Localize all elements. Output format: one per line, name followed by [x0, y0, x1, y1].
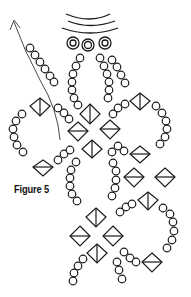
beading-diagram [0, 0, 191, 297]
arc-line-icon [66, 14, 110, 19]
figure-canvas: Figure 5 [0, 0, 191, 297]
bicone-beads [30, 93, 175, 272]
figure-label: Figure 5 [14, 183, 49, 195]
arc-line-icon [68, 21, 115, 26]
